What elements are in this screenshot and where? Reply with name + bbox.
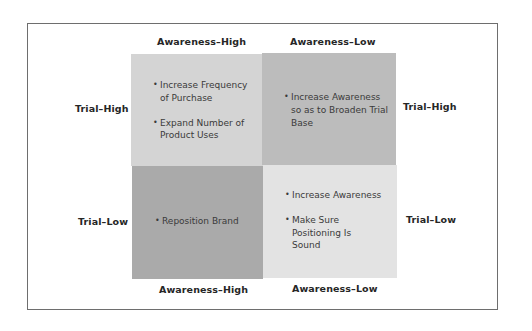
quadrant-item: Increase Awareness so as to Broaden Tria… [284,91,390,129]
bottom-axis-label-awareness-high: Awareness–High [159,284,248,295]
top-axis-label-awareness-high: Awareness–High [157,36,246,47]
quadrant-item: Make Sure Positioning Is Sound [285,214,357,252]
quadrant-item: Increase Frequency of Purchase [153,79,258,105]
quadrant-awareness-low-trial-high: Increase Awareness so as to Broaden Tria… [262,53,396,165]
left-axis-label-trial-low: Trial–Low [78,216,128,227]
quadrant-awareness-high-trial-high: Increase Frequency of Purchase Expand Nu… [131,54,263,166]
right-axis-label-trial-high: Trial–High [403,101,457,112]
left-axis-label-trial-high: Trial–High [75,103,129,114]
bottom-axis-label-awareness-low: Awareness–Low [292,283,378,294]
quadrant-item: Expand Number of Product Uses [153,117,258,143]
right-axis-label-trial-low: Trial–Low [406,214,456,225]
top-axis-label-awareness-low: Awareness–Low [290,36,376,47]
quadrant-item: Reposition Brand [155,215,260,228]
quadrant-item: Increase Awareness [285,189,357,202]
quadrant-awareness-low-trial-low: Increase Awareness Make Sure Positioning… [263,165,397,278]
quadrant-awareness-high-trial-low: Reposition Brand [132,166,263,279]
